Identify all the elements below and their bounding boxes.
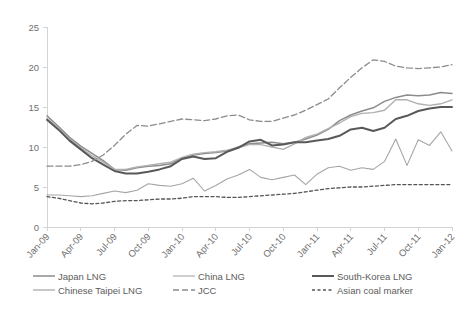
x-tick-label: Apr-10 — [193, 231, 220, 260]
series-line-jcc — [47, 60, 452, 166]
legend-label-jcc: JCC — [198, 285, 217, 296]
legend-label-south-korea-lng: South-Korea LNG — [337, 271, 413, 282]
y-tick-label: 15 — [28, 102, 39, 113]
x-tick-label: Jul-10 — [228, 231, 253, 258]
chart-legend: Japan LNGChina LNGSouth-Korea LNGChinese… — [33, 271, 413, 296]
x-tick-label: Jan-10 — [159, 231, 187, 260]
y-tick-label: 25 — [28, 22, 39, 33]
series-line-asian-coal-marker — [47, 185, 452, 204]
series-line-chinese-taipei-lng — [47, 100, 452, 170]
legend-label-chinese-taipei-lng: Chinese Taipei LNG — [58, 285, 142, 296]
y-tick-label: 10 — [28, 142, 39, 153]
x-tick-label: Jul-11 — [364, 231, 389, 257]
chart-container: 0510152025 Jan-09Apr-09Jul-09Oct-09Jan-1… — [0, 0, 461, 311]
line-chart: 0510152025 Jan-09Apr-09Jul-09Oct-09Jan-1… — [0, 0, 461, 311]
x-tick-label: Jan-11 — [294, 231, 321, 259]
x-tick-label: Apr-09 — [58, 231, 85, 260]
y-tick-label: 5 — [34, 182, 39, 193]
x-tick-label: Oct-11 — [396, 231, 423, 259]
x-axis: Jan-09Apr-09Jul-09Oct-09Jan-10Apr-10Jul-… — [24, 227, 457, 260]
legend-label-japan-lng: Japan LNG — [58, 271, 106, 282]
legend-label-asian-coal-marker: Asian coal marker — [337, 285, 413, 296]
y-tick-label: 20 — [28, 62, 39, 73]
x-tick-label: Oct-09 — [125, 231, 152, 260]
x-tick-label: Jul-09 — [93, 231, 118, 258]
x-tick-label: Oct-10 — [260, 231, 287, 260]
y-tick-label: 0 — [34, 222, 39, 233]
x-tick-label: Jan-12 — [429, 231, 457, 260]
x-tick-label: Jan-09 — [24, 231, 52, 260]
legend-label-china-lng: China LNG — [198, 271, 245, 282]
y-axis: 0510152025 — [28, 22, 47, 233]
x-tick-label: Apr-11 — [328, 231, 355, 259]
series-layer — [47, 60, 452, 204]
